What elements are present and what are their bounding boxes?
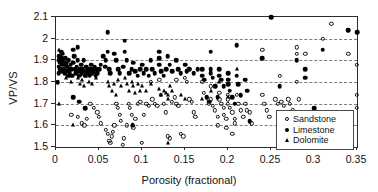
data-point-dolomite xyxy=(94,75,98,79)
y-tick-label: 1.9 xyxy=(33,53,48,65)
data-point-dolomite xyxy=(123,75,127,79)
data-point-dolomite xyxy=(71,123,75,127)
data-point-sandstone xyxy=(122,136,126,140)
data-point-sandstone xyxy=(233,121,237,125)
x-tick-label: 0.35 xyxy=(346,153,366,165)
data-point-limestone xyxy=(103,65,108,70)
data-point-sandstone xyxy=(224,117,228,121)
data-point-limestone xyxy=(77,99,82,104)
data-point-limestone xyxy=(81,58,86,63)
y-axis-label: VP/VS xyxy=(7,71,19,104)
data-point-dolomite xyxy=(133,90,137,94)
y-tick-label: 1.5 xyxy=(33,140,48,152)
data-point-dolomite xyxy=(127,88,131,92)
data-point-sandstone xyxy=(217,91,221,95)
data-point-limestone xyxy=(303,75,308,80)
data-point-limestone xyxy=(164,67,169,72)
data-point-dolomite xyxy=(84,73,88,77)
data-point-sandstone xyxy=(181,134,185,138)
data-point-limestone xyxy=(167,62,172,67)
data-point-dolomite xyxy=(90,82,94,86)
legend-label: Sandstone xyxy=(293,114,336,124)
data-point-sandstone xyxy=(247,110,251,114)
data-point-limestone xyxy=(243,78,248,83)
x-tick-label: 0.05 xyxy=(88,153,108,165)
data-point-sandstone xyxy=(303,52,307,56)
filled-circle-icon xyxy=(281,128,293,132)
data-point-sandstone xyxy=(138,99,142,103)
data-point-limestone xyxy=(55,80,60,85)
data-point-sandstone xyxy=(108,140,112,144)
data-point-sandstone xyxy=(117,112,121,116)
data-point-sandstone xyxy=(155,104,159,108)
data-point-limestone xyxy=(97,67,102,72)
legend-item-dolomite[interactable]: Dolomite xyxy=(281,135,349,146)
data-point-sandstone xyxy=(239,108,243,112)
data-point-limestone xyxy=(269,15,274,20)
data-point-sandstone xyxy=(85,117,89,121)
data-point-sandstone xyxy=(295,80,299,84)
open-circle-icon xyxy=(281,117,293,121)
data-point-limestone xyxy=(123,49,128,54)
data-point-dolomite xyxy=(226,95,230,99)
data-point-limestone xyxy=(121,65,126,70)
data-point-sandstone xyxy=(112,123,116,127)
data-point-sandstone xyxy=(215,114,219,118)
data-point-sandstone xyxy=(110,134,114,138)
data-point-limestone xyxy=(303,67,308,72)
data-point-sandstone xyxy=(277,73,281,77)
data-point-limestone xyxy=(157,56,162,61)
data-point-limestone xyxy=(191,71,196,76)
data-point-limestone xyxy=(148,58,153,63)
data-point-sandstone xyxy=(230,110,234,114)
data-point-sandstone xyxy=(288,101,292,105)
data-point-sandstone xyxy=(329,21,333,25)
data-point-sandstone xyxy=(142,112,146,116)
data-point-sandstone xyxy=(176,104,180,108)
scatter-chart-figure: VP/VS Porosity (fractional) 1.51.61.71.8… xyxy=(0,0,378,192)
data-point-dolomite xyxy=(235,67,239,71)
data-point-dolomite xyxy=(82,84,86,88)
y-tick-label: 1.7 xyxy=(33,97,48,109)
data-point-limestone xyxy=(200,67,205,72)
data-point-sandstone xyxy=(161,101,165,105)
data-point-sandstone xyxy=(99,121,103,125)
legend-item-sandstone[interactable]: Sandstone xyxy=(281,114,349,125)
data-point-dolomite xyxy=(183,97,187,101)
data-point-sandstone xyxy=(111,130,115,134)
legend-item-limestone[interactable]: Limestone xyxy=(281,125,349,136)
data-point-sandstone xyxy=(236,101,240,105)
data-point-dolomite xyxy=(159,93,163,97)
data-point-limestone xyxy=(260,56,265,61)
x-axis-label: Porosity (fractional) xyxy=(0,174,378,186)
x-tick-label: 0.1 xyxy=(134,153,149,165)
data-point-limestone xyxy=(83,106,88,111)
data-point-sandstone xyxy=(355,62,359,66)
data-point-dolomite xyxy=(125,82,129,86)
data-point-dolomite xyxy=(116,77,120,81)
data-point-dolomite xyxy=(144,88,148,92)
chart-legend: SandstoneLimestoneDolomite xyxy=(276,110,354,150)
data-point-sandstone xyxy=(174,78,178,82)
data-point-sandstone xyxy=(193,114,197,118)
data-point-sandstone xyxy=(260,93,264,97)
x-tick-label: 0.25 xyxy=(260,153,280,165)
data-point-sandstone xyxy=(215,123,219,127)
data-point-sandstone xyxy=(355,93,359,97)
data-point-sandstone xyxy=(75,114,79,118)
data-point-sandstone xyxy=(243,101,247,105)
y-tick-label: 1.8 xyxy=(33,75,48,87)
data-point-sandstone xyxy=(267,114,271,118)
data-point-dolomite xyxy=(57,47,61,51)
data-point-limestone xyxy=(135,73,140,78)
legend-label: Limestone xyxy=(293,125,335,135)
data-point-limestone xyxy=(127,71,132,76)
data-point-sandstone xyxy=(262,101,266,105)
x-tick-label: 0.15 xyxy=(174,153,194,165)
data-point-dolomite xyxy=(119,84,123,88)
data-point-dolomite xyxy=(69,80,73,84)
data-point-limestone xyxy=(75,45,80,50)
data-point-dolomite xyxy=(57,101,61,105)
data-point-limestone xyxy=(239,93,244,98)
data-point-limestone xyxy=(234,43,239,48)
